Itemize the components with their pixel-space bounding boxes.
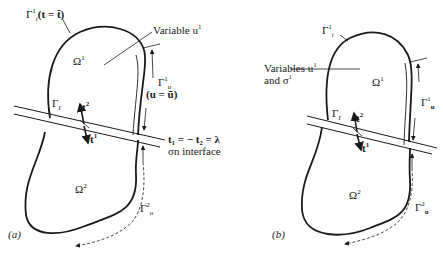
diagram-canvas (0, 0, 443, 264)
caption-a: (a) (8, 228, 21, 240)
t2-label-b: t2 (356, 112, 363, 124)
omega2-boundary-b (302, 127, 410, 235)
gamma-t-label-b: Γ1t (322, 24, 334, 36)
gamma-i-label-b: ΓI (332, 107, 341, 119)
omega2-label-a: Ω2 (75, 183, 87, 195)
caption-b: (b) (272, 228, 285, 240)
variables-label-b: Variables u1 (264, 62, 317, 74)
t1-label-a: t1 (90, 133, 97, 145)
omega1-boundary-a (48, 27, 145, 135)
interface-note: σn interface (168, 145, 221, 157)
t2-label-a: t2 (82, 101, 89, 113)
gamma-u1-condition-a: (u = ū) (146, 88, 177, 100)
omega1-label-b: Ω1 (372, 76, 384, 88)
gamma-u1-label-a: Γ1u (158, 76, 171, 88)
gamma-u2-label-b: Γ2u (415, 201, 429, 213)
interface-equation: t₁ = − t₂ = λ (168, 133, 220, 145)
omega2-label-b: Ω2 (349, 189, 361, 201)
variables-label-b-line2: and σ1 (264, 74, 292, 86)
t1-label-b: t1 (362, 142, 369, 154)
omega1-boundary-b (326, 32, 411, 142)
gamma-u2-label-a: Γ2u (140, 202, 153, 214)
gamma-t-label-a: Γ1t(t = t̄) (26, 8, 64, 20)
gamma-i-label-a: ΓI (52, 97, 61, 109)
variable-label-a: Variable u1 (153, 24, 201, 36)
gamma-u1-label-b: Γ1u (421, 96, 435, 108)
omega1-label-a: Ω1 (73, 55, 85, 67)
